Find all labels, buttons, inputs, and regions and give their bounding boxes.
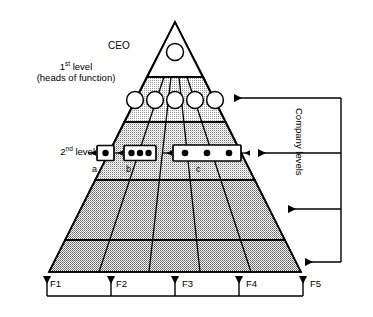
- team-b-member-3: [145, 150, 151, 156]
- ceo-label: CEO: [108, 40, 130, 51]
- level2-ordinal-suffix: nd: [66, 145, 73, 152]
- function-label-f5: F5: [310, 278, 321, 289]
- ceo-node-circle[interactable]: [167, 44, 184, 61]
- team-b-member-2: [137, 150, 143, 156]
- function-label-f2: F2: [116, 278, 127, 289]
- team-a-label: a: [92, 164, 97, 175]
- functions-bracket: [47, 276, 303, 296]
- function-label-f3: F3: [182, 278, 193, 289]
- level1-node-f2[interactable]: [147, 92, 164, 109]
- level1-label-line1: 1st level: [26, 61, 126, 72]
- function-label-f1: F1: [50, 278, 61, 289]
- level1-ordinal-rest: level: [70, 61, 92, 72]
- pyramid-band-level4: [49, 240, 301, 272]
- level1-node-f5[interactable]: [207, 92, 224, 109]
- level1-node-f4[interactable]: [187, 92, 204, 109]
- pyramid-band-level3: [65, 180, 285, 240]
- pyramid-diagram-svg: [0, 0, 373, 317]
- level1-label-line2: (heads of function): [26, 72, 126, 83]
- team-c-member-2: [204, 150, 211, 157]
- company-levels-label: Company levels: [294, 108, 305, 218]
- level1-nodes: [127, 92, 224, 109]
- team-b-label: b: [126, 164, 131, 175]
- level1-node-f1[interactable]: [127, 92, 144, 109]
- team-c-label: c: [196, 164, 201, 175]
- team-b-member-1: [128, 150, 134, 156]
- level2-ordinal-rest: level: [73, 146, 95, 157]
- level2-label: 2nd level: [27, 146, 95, 157]
- team-a-member-1: [102, 150, 108, 156]
- clipped-caption-text: [0, 309, 373, 317]
- level1-label: 1st level (heads of function): [26, 61, 126, 83]
- team-c-member-1: [182, 150, 189, 157]
- function-label-f4: F4: [246, 278, 257, 289]
- figure-canvas: CEO 1st level (heads of function) 2nd le…: [0, 0, 373, 317]
- level1-node-f3[interactable]: [167, 92, 184, 109]
- team-c-member-3: [226, 150, 233, 157]
